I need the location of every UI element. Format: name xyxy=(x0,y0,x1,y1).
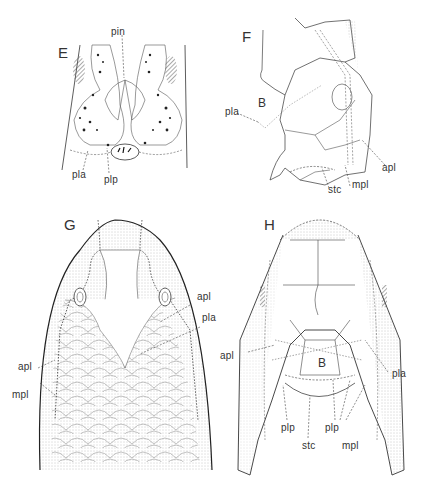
panel-g-drawing xyxy=(38,220,212,470)
label-apl: apl xyxy=(18,361,32,372)
label-stc: stc xyxy=(328,184,341,195)
label-pin: pin xyxy=(111,26,125,37)
label-apl: apl xyxy=(220,350,234,361)
panel-h-letter: H xyxy=(264,216,275,233)
label-plp: plp xyxy=(325,422,339,433)
label-stc: stc xyxy=(302,440,315,451)
panel-e-letter: E xyxy=(58,44,68,61)
panel-f-letter: F xyxy=(242,28,251,45)
label-pla: pla xyxy=(392,368,406,379)
label-pla: pla xyxy=(225,106,239,117)
label-plp: plp xyxy=(281,422,295,433)
label-b: B xyxy=(258,96,266,110)
panel-h-drawing xyxy=(238,220,404,475)
label-pla: pla xyxy=(72,169,86,180)
label-pla: pla xyxy=(202,312,216,323)
panel-g-letter: G xyxy=(64,216,76,233)
label-apl: apl xyxy=(197,291,211,302)
label-apl: apl xyxy=(382,162,396,173)
label-mpl: mpl xyxy=(342,440,359,451)
anatomical-drawings xyxy=(0,0,434,492)
label-mpl: mpl xyxy=(352,179,369,190)
label-b: B xyxy=(318,356,326,370)
label-plp: plp xyxy=(104,174,118,185)
label-mpl: mpl xyxy=(12,389,29,400)
panel-e-drawing xyxy=(62,35,187,173)
